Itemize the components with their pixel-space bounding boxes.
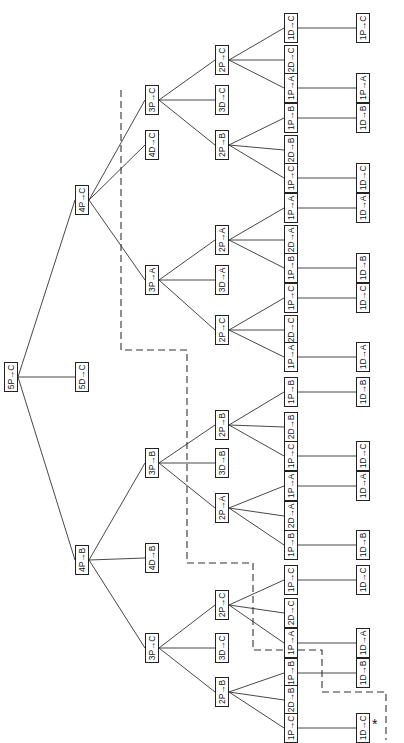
tree-edge (229, 508, 284, 545)
tree-node: 1D→B (356, 658, 370, 688)
node-label: 2P→C (217, 318, 227, 342)
node-label: 1P→B (286, 661, 296, 685)
tree-edge (18, 200, 75, 377)
tree-edge (229, 673, 284, 692)
tree-node: 1P→C (284, 713, 298, 743)
node-label: 1D→C (358, 166, 368, 191)
node-label: 2P→B (217, 133, 227, 157)
node-label: 4P→B (77, 548, 87, 572)
node-label: 2D→B (286, 138, 296, 162)
node-label: 1D→A (358, 631, 368, 655)
tree-node: 1D→B (356, 530, 370, 560)
node-label: 1P→C (286, 716, 296, 740)
tree-edge (229, 508, 284, 516)
tree-node: 2P→B (215, 130, 229, 160)
tree-edge (229, 486, 284, 508)
node-label: 4P→C (77, 188, 87, 212)
tree-node: 1P→A (284, 342, 298, 372)
tree-node: 1D→A (356, 193, 370, 223)
tree-edge (229, 425, 284, 427)
tree-node: 1P→B (284, 377, 298, 407)
node-label: 1D→C (358, 568, 368, 593)
tree-edge (89, 463, 145, 560)
node-label: 1D→A (358, 345, 368, 369)
tree-node: 2D→B (284, 412, 298, 442)
tree-edge (159, 648, 215, 692)
node-label: 2D→B (286, 415, 296, 439)
tree-edge (229, 298, 284, 330)
tree-node: 3D→B (215, 448, 229, 478)
node-label: 1P→A (286, 631, 296, 655)
node-label: 2P→C (217, 48, 227, 72)
tree-node: 1D→C (284, 13, 298, 43)
node-label: 5D→C (77, 365, 87, 390)
tree-edge (229, 240, 284, 268)
node-label: 3D→A (217, 268, 227, 292)
node-label: 5P→C (6, 365, 16, 389)
tree-node: 1P→C (356, 13, 370, 43)
tree-node: 5D→C (75, 362, 89, 392)
tree-edge (229, 118, 284, 145)
tree-node: 2D→C (284, 598, 298, 628)
tree-node: 2D→A (284, 501, 298, 531)
node-label: 2P→C (217, 593, 227, 617)
tree-node: 3P→C (145, 633, 159, 663)
tree-node: 1D→B (356, 103, 370, 133)
tree-node: 1D→C (356, 283, 370, 313)
tree-node: 4P→C (75, 185, 89, 215)
node-label: 1P→A (358, 76, 368, 100)
node-label: 1D→C (358, 286, 368, 311)
node-label: 3P→A (147, 268, 157, 292)
tree-edge (159, 240, 215, 280)
tree-node: 2D→B (284, 135, 298, 165)
tree-node: 2D→B (284, 685, 298, 715)
tree-node: 1D→A (356, 471, 370, 501)
tree-node: 2P→A (215, 493, 229, 523)
tree-node: 2P→B (215, 677, 229, 707)
asterisk-marker: * (372, 716, 377, 732)
tree-node: 1D→A (356, 628, 370, 658)
node-label: 2P→B (217, 680, 227, 704)
tree-node: 4P→B (75, 545, 89, 575)
tree-edge (89, 200, 145, 280)
tree-node: 2P→C (215, 45, 229, 75)
tree-node: 3P→C (145, 85, 159, 115)
node-label: 1D→B (358, 661, 368, 685)
node-label: 1P→A (286, 76, 296, 100)
tree-node: 3P→A (145, 265, 159, 295)
tree-node: 1P→C (284, 441, 298, 471)
node-label: 1P→B (286, 533, 296, 557)
tree-node: 5P→C (4, 362, 18, 392)
tree-node: 1D→B (356, 253, 370, 283)
tree-edge (229, 580, 284, 605)
node-label: 1P→C (286, 286, 296, 310)
node-label: 1D→A (358, 196, 368, 220)
node-label: 1P→C (286, 568, 296, 592)
tree-node: 1P→C (284, 163, 298, 193)
node-label: 1P→C (286, 166, 296, 190)
tree-edge (229, 425, 284, 456)
tree-edge (229, 605, 284, 643)
node-label: 1D→C (286, 16, 296, 41)
tree-node: 1P→A (284, 73, 298, 103)
tree-edge (229, 392, 284, 425)
tree-edge (18, 377, 75, 560)
node-label: 1P→A (286, 345, 296, 369)
tree-node: 2P→C (215, 590, 229, 620)
tree-edge (159, 605, 215, 648)
tree-node: 2D→A (284, 225, 298, 255)
tree-node: 3P→B (145, 448, 159, 478)
tree-edge (229, 145, 284, 178)
tree-node: 1P→B (284, 530, 298, 560)
tree-node: 3D→C (215, 85, 229, 115)
node-label: 1P→B (286, 256, 296, 280)
tree-node: 4D→C (145, 130, 159, 160)
node-label: 2P→A (217, 496, 227, 520)
tree-node: 1P→A (356, 73, 370, 103)
tree-edge (159, 100, 215, 145)
node-label: 1P→C (286, 444, 296, 468)
tree-node: 1P→B (284, 103, 298, 133)
tree-node: 1P→A (284, 471, 298, 501)
tree-node: 1P→B (284, 658, 298, 688)
